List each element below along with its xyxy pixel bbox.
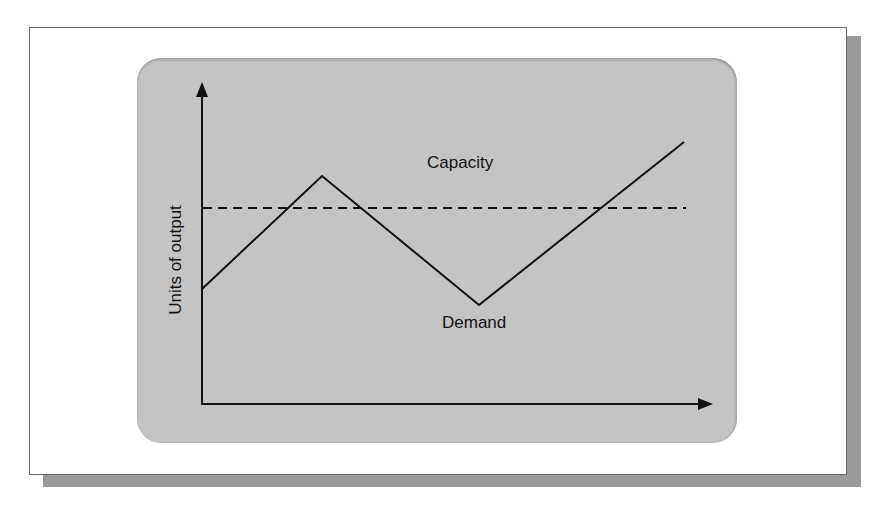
demand-label: Demand bbox=[442, 313, 506, 333]
y-axis-arrow-icon bbox=[196, 82, 208, 97]
y-axis-label: Units of output bbox=[166, 205, 186, 315]
x-axis-arrow-icon bbox=[698, 398, 713, 410]
chart-area bbox=[0, 0, 886, 506]
capacity-label: Capacity bbox=[427, 153, 493, 173]
